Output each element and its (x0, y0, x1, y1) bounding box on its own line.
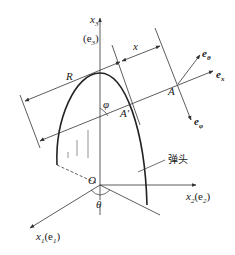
x-label: x (132, 40, 138, 52)
theta-arc (91, 190, 110, 195)
x-dimension-line (122, 46, 160, 61)
x1-axis-label: x1(e1) (35, 230, 60, 245)
theta-label: θ (96, 198, 102, 210)
e-x-label: ex (216, 68, 225, 83)
x2-axis-label: x2(e2) (185, 190, 210, 205)
a-label: A (167, 85, 175, 97)
x2-axis: x2(e2) (100, 185, 210, 205)
a-prime-label: A′ (119, 107, 130, 119)
x3-axis-label: x3 (89, 13, 99, 28)
r-label: R (65, 70, 73, 82)
e-theta-vector (178, 55, 200, 84)
e-phi-label: eφ (194, 115, 203, 130)
x1-axis: x1(e1) (30, 185, 100, 245)
interior-hatch (68, 130, 88, 158)
theta-ray (100, 185, 160, 215)
projectile-coordinate-diagram: x3 (e3) x2(e2) x1(e1) θ O φ R x A′ A eθ (0, 0, 235, 255)
left-extension-line (20, 95, 40, 148)
projectile-callout-label: 弹头 (168, 153, 188, 165)
e-theta-label: eθ (202, 47, 211, 62)
phi-label: φ (103, 98, 109, 110)
x3-basis-label: (e3) (83, 32, 99, 47)
callout-leader (138, 160, 165, 172)
